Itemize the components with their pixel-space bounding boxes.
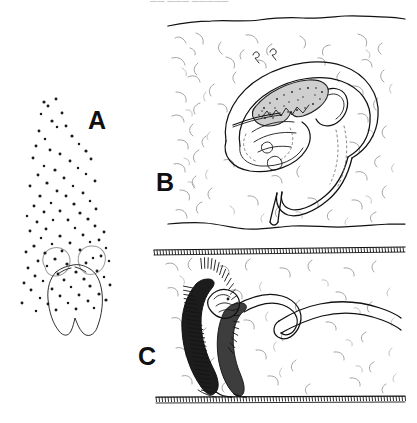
panel-a-dot: [103, 276, 106, 279]
hatch-tick: [363, 396, 364, 401]
hatch-tick: [396, 396, 397, 401]
hatch-tick: [282, 396, 283, 401]
hatch-tick: [352, 248, 353, 253]
panel-a-dot: [50, 202, 53, 205]
hatch-tick: [244, 249, 245, 254]
hatch-tick: [310, 248, 311, 253]
hatch-tick: [253, 249, 254, 254]
hatch-tick: [304, 248, 305, 253]
panel-a-dot: [32, 244, 35, 247]
panel-a-dot: [103, 231, 106, 234]
panel-a-dot: [56, 126, 59, 129]
panel-a-dot: [39, 297, 42, 300]
panel-a-dot: [97, 292, 100, 295]
hatch-tick: [393, 396, 394, 401]
hatch-tick: [277, 249, 278, 254]
panel-a-dot: [40, 237, 43, 240]
panel-a-dot: [75, 308, 78, 311]
bristle-tick: [201, 258, 202, 269]
bristle-tick: [228, 283, 233, 289]
hatch-tick: [394, 247, 395, 252]
bristle-tick: [222, 269, 226, 278]
shading-hatch: [183, 286, 193, 288]
panel-a-dot: [72, 202, 75, 205]
panel-a-dot: [98, 239, 101, 242]
panel-a-dot: [74, 227, 77, 230]
hatch-tick: [289, 248, 290, 253]
hatch-tick: [324, 396, 325, 401]
hatch-tick: [397, 247, 398, 252]
panel-a-dot: [59, 210, 62, 213]
hatch-tick: [208, 249, 209, 254]
hatch-tick: [321, 396, 322, 401]
hatch-tick: [346, 248, 347, 253]
hatch-tick: [381, 396, 382, 401]
panel-a-dot: [38, 194, 41, 197]
panel-a-dot: [46, 265, 49, 268]
hatch-tick: [364, 247, 365, 252]
hatch-tick: [163, 250, 164, 255]
panel-a-dot: [82, 277, 85, 280]
hatch-tick: [319, 248, 320, 253]
hatch-tick: [294, 396, 295, 401]
panel-a-dot: [44, 138, 47, 141]
panel-a-dot: [63, 279, 66, 282]
panel-a-dot: [67, 219, 70, 222]
hatch-tick: [402, 396, 403, 401]
hatch-tick: [174, 397, 175, 402]
panel-a-dot: [37, 174, 40, 177]
panel-a-dot: [63, 177, 66, 180]
hatch-tick: [177, 397, 178, 402]
hatch-tick: [252, 397, 253, 402]
panel-a-dot: [25, 251, 28, 254]
hatch-tick: [183, 397, 184, 402]
panel-a-dot: [69, 160, 72, 163]
panel-a-dot: [65, 195, 68, 198]
hatch-tick: [232, 249, 233, 254]
panel-label-a: A: [88, 108, 106, 133]
hatch-tick: [283, 248, 284, 253]
hatch-tick: [285, 396, 286, 401]
hatch-tick: [201, 397, 202, 402]
hatch-tick: [295, 248, 296, 253]
hatch-tick: [300, 396, 301, 401]
hatch-tick: [256, 249, 257, 254]
panel-c-artwork: [154, 247, 406, 403]
hatch-tick: [162, 397, 163, 402]
panel-a-dot: [74, 270, 77, 273]
hatch-tick: [234, 397, 235, 402]
hatch-tick: [336, 396, 337, 401]
hatch-tick: [211, 249, 212, 254]
panel-a-dot: [109, 284, 112, 287]
hatch-tick: [229, 249, 230, 254]
hatch-tick: [342, 396, 343, 401]
hatch-tick: [385, 247, 386, 252]
hatch-tick: [219, 397, 220, 402]
panel-a-dot: [79, 249, 82, 252]
hatch-tick: [189, 397, 190, 402]
hatch-tick: [226, 249, 227, 254]
hatch-tick: [274, 249, 275, 254]
panel-a-dot: [56, 190, 59, 193]
hatch-tick: [171, 397, 172, 402]
hatch-tick: [186, 397, 187, 402]
panel-a-dot: [100, 255, 103, 258]
hatch-tick: [367, 247, 368, 252]
bristle-tick: [231, 295, 237, 299]
panel-a-dot: [95, 208, 98, 211]
hatch-tick: [334, 248, 335, 253]
hatch-tick: [267, 397, 268, 402]
panel-a-dot: [21, 302, 24, 305]
bristle-tick: [211, 258, 212, 269]
hatch-tick: [340, 248, 341, 253]
panel-a-dot: [87, 300, 90, 303]
hatch-tick: [175, 250, 176, 255]
hatch-tick: [370, 247, 371, 252]
hatch-tick: [337, 248, 338, 253]
hatch-tick: [366, 396, 367, 401]
hatch-tick: [166, 250, 167, 255]
hatch-tick: [165, 397, 166, 402]
panel-a-dot: [70, 134, 73, 137]
panel-a-dot: [59, 153, 62, 156]
hatch-tick: [160, 250, 161, 255]
